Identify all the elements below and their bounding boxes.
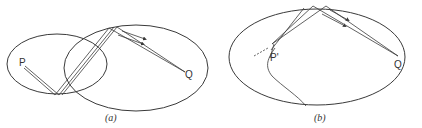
panel-b: P' Q (b) [229, 6, 405, 124]
caption-b: (b) [314, 112, 326, 124]
large-ellipse [64, 25, 208, 111]
ray-bottom-to-top-3 [62, 27, 117, 95]
ray-top-to-q-1 [109, 28, 185, 72]
ray-p-to-top-3 [272, 6, 326, 44]
figure: P Q (a) P' Q (b) [0, 0, 422, 128]
point-p-prime-label: P' [270, 52, 279, 63]
ray-p-to-top-2 [272, 6, 313, 44]
ray-p-to-bottom-1 [24, 68, 55, 95]
ray-arrow-2 [322, 14, 345, 26]
dashed-curve [254, 48, 268, 56]
ray-top-to-q-2 [117, 27, 185, 72]
ray-p-to-bottom-2 [25, 66, 59, 95]
point-p-label: P [19, 57, 26, 68]
ellipse [229, 9, 405, 105]
caption-a: (a) [105, 112, 117, 124]
point-q-label-b: Q [394, 59, 402, 70]
point-q-label: Q [185, 69, 193, 80]
panel-a: P Q (a) [7, 25, 208, 124]
